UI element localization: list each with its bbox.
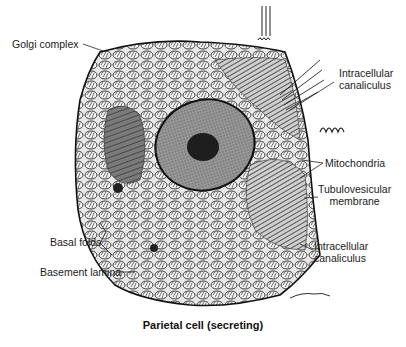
- microvilli-right: [320, 128, 344, 132]
- basement-tail: [290, 293, 330, 298]
- golgi-complex-region: [104, 106, 145, 183]
- label-intracellular-canaliculus-bottom: Intracellular canaliculus: [314, 240, 368, 264]
- figure-caption: Parietal cell (secreting): [0, 319, 406, 331]
- label-basal-folds: Basal folds: [50, 236, 101, 248]
- granule: [150, 244, 158, 252]
- label-golgi-complex: Golgi complex: [12, 38, 79, 50]
- cell-illustration: [0, 0, 406, 347]
- label-intracellular-canaliculus-top: Intracellular canaliculus: [339, 67, 393, 91]
- label-basement-lamina: Basement lamina: [40, 266, 121, 278]
- microvilli-top: [258, 6, 270, 40]
- label-mitochondria: Mitochondria: [325, 157, 385, 169]
- leader-golgi: [83, 44, 106, 52]
- label-tubulovesicular-membrane: Tubulovesicular membrane: [318, 183, 391, 207]
- granule: [113, 183, 123, 193]
- parietal-cell-diagram: Golgi complex Intracellular canaliculus …: [0, 0, 406, 347]
- nucleolus: [187, 133, 219, 161]
